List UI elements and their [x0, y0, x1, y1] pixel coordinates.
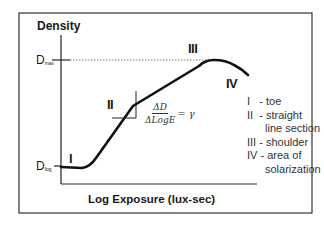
legend-numeral: II [247, 109, 253, 121]
region-label-solarization: IV [226, 77, 237, 90]
formula-denominator: ΔLogE [145, 114, 175, 125]
legend-text: - area of [260, 149, 301, 161]
legend-item-straight: II - straight [247, 109, 321, 123]
gamma-fraction: ΔD ΔLogE [145, 102, 175, 125]
d-max-label: Dmax [36, 54, 54, 66]
gamma-triangle [112, 91, 136, 118]
legend-numeral: IV [247, 149, 257, 161]
legend-item-toe: I - toe [247, 95, 321, 109]
d-max-main: D [36, 53, 45, 67]
y-axis-label: Density [37, 20, 80, 32]
d-fog-main: D [36, 159, 45, 173]
legend-text: - toe [259, 95, 281, 107]
gamma-formula: ΔD ΔLogE = γ [145, 102, 195, 125]
legend: I - toe II - straight line section III -… [247, 95, 321, 176]
region-label-toe: I [69, 152, 72, 165]
d-fog-sub: fog [45, 166, 52, 172]
legend-item-solarization: IV - area of [247, 149, 321, 163]
legend-item-shoulder: III - shoulder [247, 136, 321, 150]
legend-continuation: solarization [247, 163, 321, 177]
d-fog-label: Dfog [36, 160, 52, 172]
legend-text: - shoulder [259, 136, 308, 148]
formula-result: = γ [177, 108, 195, 119]
legend-numeral: III [247, 136, 256, 148]
legend-numeral: I [247, 95, 250, 107]
x-axis-label: Log Exposure (lux-sec) [88, 194, 215, 206]
legend-text: - straight [259, 109, 302, 121]
region-label-shoulder: III [188, 42, 197, 55]
region-label-straight: II [107, 98, 113, 111]
legend-continuation: line section [247, 122, 321, 136]
formula-numerator: ΔD [152, 102, 168, 114]
d-max-sub: max [45, 60, 54, 66]
